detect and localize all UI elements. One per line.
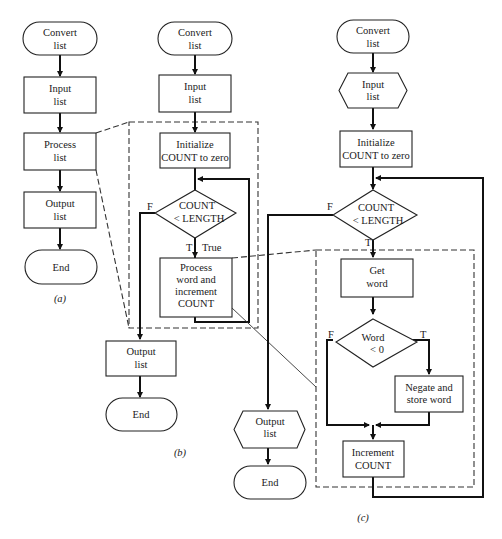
zoom-guide-a-top [96,122,129,133]
svg-text:COUNT: COUNT [179,200,216,211]
a-output-box: Output list [24,192,96,228]
svg-text:Get: Get [369,265,384,276]
svg-text:list: list [264,428,277,439]
svg-text:list: list [54,40,67,51]
svg-text:store word: store word [407,394,452,405]
c-negate-box: Negate and store word [395,376,463,412]
b-process-box: Process word and increment COUNT [160,258,232,317]
svg-text:COUNT to zero: COUNT to zero [342,150,409,161]
svg-text:list: list [189,94,202,105]
svg-text:Output: Output [126,346,155,357]
svg-text:list: list [367,91,380,102]
flowchart-figure: Convert list Input list Process list Out… [0,0,502,539]
b-output-box: Output list [106,341,176,376]
figure-a: Convert list Input list Process list Out… [23,22,97,305]
a-input-box: Input list [24,77,96,113]
svg-text:list: list [54,96,67,107]
svg-text:word and: word and [176,274,216,285]
zoom-guide-b-top [232,250,316,258]
svg-text:Convert: Convert [43,27,77,38]
b-input-box: Input list [159,75,231,112]
svg-text:word: word [366,278,388,289]
svg-text:Input: Input [362,79,384,90]
b-true-word-label: True [202,242,222,253]
b-true-label: T [186,242,193,253]
figure-b: Convert list Input list Initialize COUNT… [106,22,258,459]
svg-text:Input: Input [184,81,206,92]
c-input-hexagon: Input list [339,73,407,108]
svg-text:Negate and: Negate and [405,382,453,393]
zoom-guide-b-bottom [232,308,316,387]
svg-text:Convert: Convert [356,25,390,36]
c-word-decision-diamond: Word < 0 [336,319,417,367]
figure-c: Convert list Input list Initialize COUNT… [234,20,483,524]
svg-text:list: list [135,359,148,370]
svg-text:Process: Process [44,139,76,150]
c-increment-box: Increment COUNT [343,441,404,477]
svg-text:< LENGTH: < LENGTH [353,215,404,226]
svg-text:Increment: Increment [352,447,395,458]
c-count-false-label: F [327,201,333,212]
svg-text:Convert: Convert [178,27,212,38]
c-get-word-box: Get word [341,259,413,297]
svg-text:< 0: < 0 [370,344,384,355]
c-count-true-label: T [365,237,372,248]
c-start-terminal: Convert list [337,20,409,53]
svg-text:< LENGTH: < LENGTH [174,213,225,224]
svg-text:Output: Output [45,198,74,209]
a-start-terminal: Convert list [23,22,97,55]
c-end-terminal: End [234,466,306,499]
caption-c: (c) [357,512,369,524]
b-false-label: F [147,201,153,212]
svg-text:Input: Input [49,83,71,94]
svg-text:Process: Process [180,262,212,273]
svg-text:Initialize: Initialize [357,137,395,148]
b-decision-diamond: COUNT < LENGTH [155,190,236,238]
c-word-false-label: F [328,329,334,340]
b-start-terminal: Convert list [158,22,232,55]
svg-text:list: list [54,211,67,222]
zoom-guide-a-bottom [96,170,129,328]
svg-text:COUNT to zero: COUNT to zero [161,152,228,163]
svg-text:COUNT: COUNT [358,202,395,213]
svg-text:list: list [367,38,380,49]
a-process-box: Process list [24,133,96,170]
c-init-box: Initialize COUNT to zero [340,131,412,167]
c-word-true-label: T [420,329,427,340]
svg-text:list: list [189,40,202,51]
b-end-terminal: End [106,398,177,431]
svg-text:Initialize: Initialize [176,139,214,150]
svg-text:COUNT: COUNT [355,460,392,471]
c-decision-diamond: COUNT < LENGTH [333,190,417,240]
caption-b: (b) [174,447,187,459]
a-end-terminal: End [25,250,97,284]
svg-text:list: list [54,152,67,163]
svg-text:Word: Word [361,332,385,343]
svg-text:increment: increment [175,286,217,297]
caption-a: (a) [54,293,67,305]
svg-text:Output: Output [255,416,284,427]
c-output-hexagon: Output list [234,411,305,448]
svg-text:End: End [262,477,280,488]
b-init-box: Initialize COUNT to zero [160,133,230,168]
svg-text:COUNT: COUNT [178,298,215,309]
svg-text:End: End [133,409,151,420]
svg-text:End: End [53,262,71,273]
